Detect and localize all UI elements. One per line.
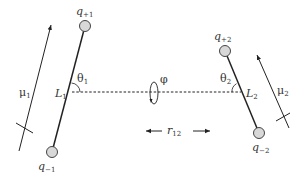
mu2-label: μ2 [277,84,289,98]
torsion-rotation-icon [150,82,159,104]
charge-plus1 [80,21,91,32]
q-minus2-label: q−2 [252,141,269,155]
r12-label: r12 [167,124,181,138]
dipole2-rod [225,51,259,133]
theta1-label: θ1 [77,72,88,86]
charge-minus2 [254,128,265,139]
theta2-arc [232,84,237,92]
phi-label: φ [160,73,168,86]
charge-plus2 [220,46,231,57]
L1-label: L1 [54,87,67,101]
tail-tick-mark [16,123,33,133]
charge-minus1 [47,147,58,158]
dipole-diagram: μ1 q+1 q−1 L1 θ1 φ r12 q+2 q−2 L2 θ2 [0,0,304,174]
q-plus1-label: q+1 [76,5,93,19]
L2-label: L2 [245,87,258,101]
q-minus1-label: q−1 [38,160,55,174]
mu1-label: μ1 [19,86,31,100]
q-plus2-label: q+2 [214,30,231,44]
theta2-label: θ2 [220,72,231,86]
